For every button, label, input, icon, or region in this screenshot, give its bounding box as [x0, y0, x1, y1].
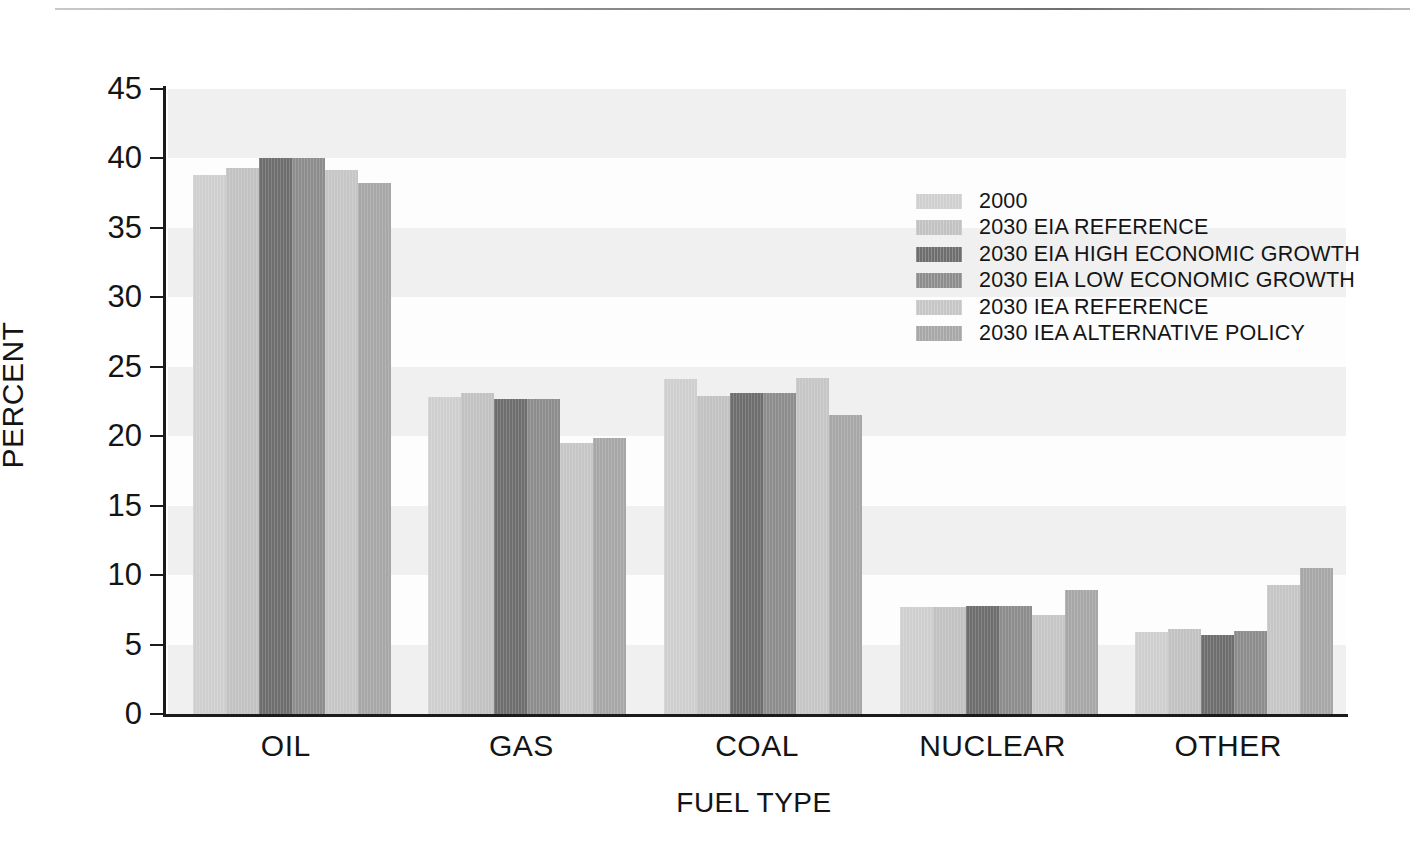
- y-axis-tick-label: 20: [108, 420, 142, 451]
- legend-label: 2030 IEA ALTERNATIVE POLICY: [979, 321, 1305, 346]
- bar-group-gas: [428, 89, 626, 714]
- category-label-other: OTHER: [1110, 729, 1346, 763]
- bar-group-other: [1135, 89, 1333, 714]
- y-axis-tick: [150, 157, 164, 159]
- bar[interactable]: [292, 158, 325, 714]
- y-axis-title: PERCENT: [0, 295, 30, 495]
- bar[interactable]: [259, 158, 292, 714]
- bar-group-coal: [664, 89, 862, 714]
- legend-label: 2030 EIA LOW ECONOMIC GROWTH: [979, 268, 1355, 293]
- legend-item[interactable]: 2030 EIA LOW ECONOMIC GROWTH: [916, 268, 1360, 295]
- y-axis-tick-label: 30: [108, 281, 142, 312]
- bar[interactable]: [527, 399, 560, 714]
- bar[interactable]: [763, 393, 796, 714]
- y-axis-tick: [150, 366, 164, 368]
- bar[interactable]: [593, 438, 626, 714]
- legend-swatch-icon: [916, 326, 962, 341]
- y-axis-tick-label: 10: [108, 559, 142, 590]
- bar[interactable]: [966, 606, 999, 714]
- category-label-nuclear: NUCLEAR: [875, 729, 1111, 763]
- legend-label: 2000: [979, 189, 1028, 214]
- y-axis-tick-label: 40: [108, 142, 142, 173]
- plot-area: [168, 89, 1346, 714]
- legend-item[interactable]: 2030 IEA ALTERNATIVE POLICY: [916, 321, 1360, 348]
- y-axis-tick: [150, 435, 164, 437]
- bar[interactable]: [358, 183, 391, 714]
- legend-swatch-icon: [916, 300, 962, 315]
- y-axis-line: [163, 86, 166, 717]
- y-axis-tick: [150, 227, 164, 229]
- bar[interactable]: [1135, 632, 1168, 714]
- bar[interactable]: [494, 399, 527, 714]
- bar[interactable]: [560, 443, 593, 714]
- y-axis-tick: [150, 296, 164, 298]
- bar[interactable]: [193, 175, 226, 714]
- bar-group-oil: [193, 89, 391, 714]
- bar[interactable]: [1065, 590, 1098, 714]
- bar[interactable]: [1300, 568, 1333, 714]
- bar[interactable]: [1267, 585, 1300, 714]
- x-axis-title: FUEL TYPE: [163, 787, 1345, 819]
- bar[interactable]: [325, 170, 358, 714]
- bar[interactable]: [900, 607, 933, 714]
- x-axis-line: [163, 714, 1348, 717]
- legend-item[interactable]: 2000: [916, 188, 1360, 215]
- legend-item[interactable]: 2030 IEA REFERENCE: [916, 294, 1360, 321]
- y-axis-tick: [150, 505, 164, 507]
- y-axis-tick: [150, 88, 164, 90]
- legend-swatch-icon: [916, 194, 962, 209]
- bar[interactable]: [1201, 635, 1234, 714]
- bar[interactable]: [697, 396, 730, 714]
- category-label-gas: GAS: [404, 729, 640, 763]
- category-label-oil: OIL: [168, 729, 404, 763]
- bar[interactable]: [999, 606, 1032, 714]
- bar[interactable]: [730, 393, 763, 714]
- y-axis-tick-label: 35: [108, 212, 142, 243]
- bar[interactable]: [428, 397, 461, 714]
- y-axis-tick: [150, 574, 164, 576]
- y-axis-tick: [150, 713, 164, 715]
- bar[interactable]: [226, 168, 259, 714]
- bar[interactable]: [1234, 631, 1267, 714]
- legend-label: 2030 EIA HIGH ECONOMIC GROWTH: [979, 242, 1360, 267]
- y-axis-tick-label: 0: [125, 698, 142, 729]
- bar[interactable]: [1032, 615, 1065, 714]
- legend-item[interactable]: 2030 EIA REFERENCE: [916, 215, 1360, 242]
- bar[interactable]: [664, 379, 697, 714]
- y-axis-tick-label: 5: [125, 629, 142, 660]
- bar-chart-figure: PERCENT FUEL TYPE 051015202530354045 OIL…: [0, 0, 1418, 855]
- y-axis-tick-label: 25: [108, 351, 142, 382]
- y-axis-tick: [150, 644, 164, 646]
- y-axis-tick-label: 15: [108, 490, 142, 521]
- legend-label: 2030 EIA REFERENCE: [979, 215, 1208, 240]
- chart-legend: 20002030 EIA REFERENCE2030 EIA HIGH ECON…: [916, 188, 1360, 347]
- legend-label: 2030 IEA REFERENCE: [979, 295, 1208, 320]
- legend-item[interactable]: 2030 EIA HIGH ECONOMIC GROWTH: [916, 241, 1360, 268]
- y-axis-tick-label: 45: [108, 73, 142, 104]
- bar[interactable]: [796, 378, 829, 714]
- page-top-rule: [55, 8, 1410, 10]
- legend-swatch-icon: [916, 247, 962, 262]
- legend-swatch-icon: [916, 273, 962, 288]
- legend-swatch-icon: [916, 220, 962, 235]
- category-label-coal: COAL: [639, 729, 875, 763]
- bar[interactable]: [1168, 629, 1201, 714]
- bar[interactable]: [933, 607, 966, 714]
- bar[interactable]: [461, 393, 494, 714]
- bar[interactable]: [829, 415, 862, 714]
- bar-group-nuclear: [900, 89, 1098, 714]
